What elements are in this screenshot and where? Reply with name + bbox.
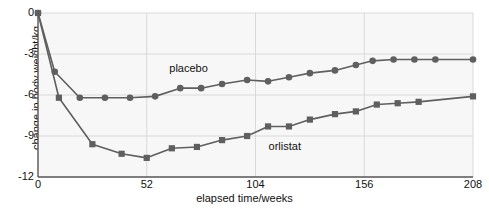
data-point: [286, 123, 292, 129]
data-point: [286, 74, 293, 81]
data-point: [265, 78, 272, 85]
data-point: [265, 123, 271, 129]
data-point: [244, 77, 251, 84]
chart-container: change in body weight/kg elapsed time/we…: [0, 0, 489, 209]
data-point: [411, 56, 418, 63]
data-point: [127, 94, 134, 101]
data-point: [89, 141, 95, 147]
data-point: [194, 144, 200, 150]
series-annotation-orlistat: orlistat: [269, 140, 301, 152]
data-point: [470, 93, 476, 99]
data-point: [244, 133, 250, 139]
data-point: [307, 70, 314, 77]
plot-area: placeboorlistat: [0, 0, 489, 209]
data-point: [432, 56, 439, 63]
data-point: [369, 58, 376, 65]
data-point: [219, 81, 226, 88]
data-point: [35, 10, 41, 16]
data-point: [395, 100, 401, 106]
data-point: [353, 62, 360, 69]
data-point: [177, 85, 184, 92]
data-point: [374, 101, 380, 107]
data-point: [198, 85, 205, 92]
data-point: [470, 56, 477, 63]
data-point: [169, 145, 175, 151]
data-point: [119, 151, 125, 157]
data-point: [56, 95, 62, 101]
series-annotation-placebo: placebo: [169, 62, 208, 74]
data-point: [332, 111, 338, 117]
data-point: [353, 108, 359, 114]
data-point: [102, 94, 109, 101]
data-point: [144, 155, 150, 161]
data-point: [390, 56, 397, 63]
data-point: [219, 137, 225, 143]
data-point: [77, 94, 84, 101]
data-point: [416, 99, 422, 105]
data-point: [307, 117, 313, 123]
data-point: [152, 93, 159, 100]
data-point: [332, 67, 339, 74]
